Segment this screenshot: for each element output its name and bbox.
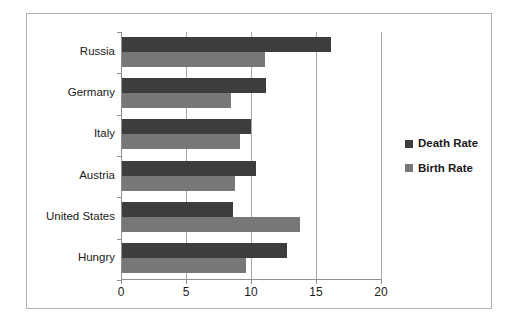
category-tick [117,115,121,116]
value-tick-5 [186,280,187,284]
bar-death-rate[interactable] [122,202,233,217]
bar-group: Hungry [122,239,381,280]
category-tick [117,239,121,240]
bar-group: Germany [122,73,381,114]
category-label: Russia [80,46,115,58]
bar-birth-rate[interactable] [122,134,240,149]
legend-swatch-birth-rate [405,164,413,172]
gridline-20 [381,32,382,280]
value-axis-label-15: 15 [309,286,322,298]
category-tick [117,32,121,33]
bar-birth-rate[interactable] [122,217,300,232]
bar-death-rate[interactable] [122,119,251,134]
legend-swatch-death-rate [405,140,413,148]
value-tick-15 [316,280,317,284]
value-axis-label-20: 20 [374,286,387,298]
category-label: Italy [94,128,115,140]
legend-item-birth-rate[interactable]: Birth Rate [405,163,478,175]
value-axis-label-0: 0 [118,286,125,298]
value-tick-20 [381,280,382,284]
bar-group: Austria [122,156,381,197]
bar-birth-rate[interactable] [122,93,231,108]
value-axis-label-10: 10 [244,286,257,298]
bar-group: Italy [122,115,381,156]
bar-death-rate[interactable] [122,243,287,258]
category-label: United States [46,211,115,223]
bar-death-rate[interactable] [122,161,256,176]
category-tick [117,280,121,281]
category-label: Germany [68,87,115,99]
category-tick [117,73,121,74]
value-tick-0 [121,280,122,284]
bar-death-rate[interactable] [122,37,331,52]
plot-area: 05101520 RussiaGermanyItalyAustriaUnited… [121,32,381,280]
legend-item-death-rate[interactable]: Death Rate [405,138,478,150]
bar-birth-rate[interactable] [122,258,246,273]
bar-group: Russia [122,32,381,73]
category-tick [117,197,121,198]
bar-death-rate[interactable] [122,78,266,93]
chart-frame: 05101520 RussiaGermanyItalyAustriaUnited… [26,13,492,309]
value-axis-label-5: 5 [183,286,190,298]
bar-birth-rate[interactable] [122,176,235,191]
chart-legend: Death Rate Birth Rate [405,138,478,187]
bar-birth-rate[interactable] [122,52,265,67]
category-tick [117,156,121,157]
category-label: Hungry [78,252,115,264]
bar-group: United States [122,197,381,238]
legend-label-death-rate: Death Rate [418,138,478,150]
value-tick-10 [251,280,252,284]
category-label: Austria [79,170,115,182]
legend-label-birth-rate: Birth Rate [418,163,473,175]
